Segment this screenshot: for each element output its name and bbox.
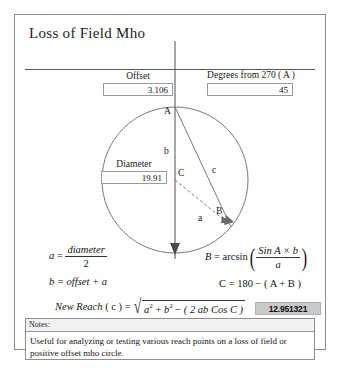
formula-a-equals: = — [57, 250, 63, 261]
diagram-label-C: C — [178, 168, 184, 178]
diameter-label: Diameter — [101, 159, 167, 169]
diagram-label-side-c: c — [212, 165, 216, 175]
diagram-label-side-b: b — [164, 146, 169, 156]
notes-panel: Notes: Useful for analyzing or testing v… — [25, 318, 315, 360]
formula-reach-plus: + — [155, 304, 161, 315]
new-reach-result: 12.951321 — [255, 302, 321, 315]
formula-a: a = diameter 2 — [49, 244, 107, 269]
notes-header: Notes: — [26, 319, 314, 332]
formula-reach-minus: − — [175, 304, 181, 315]
offset-input[interactable]: 3.106 — [103, 83, 173, 96]
diameter-input[interactable]: 19.91 — [101, 171, 167, 184]
sqrt-icon: √ — [134, 301, 141, 314]
formula-B-denominator: a — [256, 258, 300, 270]
formula-capital-c: C = 180 − ( A + B ) — [219, 278, 301, 289]
formula-a-denominator: 2 — [65, 257, 106, 269]
notes-body: Useful for analyzing or testing various … — [26, 332, 314, 359]
formula-B-lhs: B — [205, 251, 211, 262]
formula-reach-exp2: 2 — [169, 302, 173, 310]
offset-label: Offset — [103, 71, 173, 81]
formula-reach-equals: = — [125, 301, 131, 312]
formula-B-function: arcsin — [223, 251, 248, 262]
formula-reach-exp1: 2 — [149, 302, 153, 310]
diagram-label-A: A — [164, 106, 171, 116]
diagram-label-side-a: a — [198, 213, 203, 223]
formula-reach-var: ( c ) — [105, 301, 122, 312]
formula-reach-term3: ( 2 ab Cos C ) — [184, 304, 243, 315]
loss-of-field-mho-card: Loss of Field Mho A B C a b c Offse — [14, 14, 326, 350]
degrees-from-270-label: Degrees from 270 ( A ) — [191, 70, 311, 80]
diagram-label-B: B — [216, 206, 222, 216]
formula-B-numerator: Sin A × b — [256, 245, 300, 258]
formula-capital-b: B = arcsin( Sin A × b a ) — [205, 245, 309, 270]
formula-a-numerator: diameter — [65, 244, 106, 257]
formula-b: b = offset + a — [49, 276, 107, 287]
formula-B-equals: = — [214, 251, 220, 262]
degrees-from-270-input[interactable]: 45 — [207, 83, 293, 96]
formula-a-lhs: a — [49, 250, 54, 261]
formula-reach-lhs: New Reach — [55, 301, 103, 312]
formula-new-reach: New Reach ( c ) = √ a2 + b2 − ( 2 ab Cos… — [55, 300, 245, 315]
